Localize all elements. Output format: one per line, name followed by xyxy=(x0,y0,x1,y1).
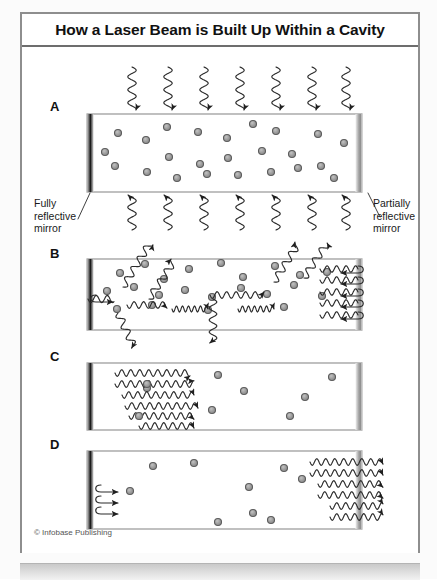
atom xyxy=(127,488,134,495)
pump-wave-in xyxy=(164,67,172,110)
atom xyxy=(191,460,198,467)
atom xyxy=(112,163,119,170)
atom xyxy=(143,137,150,144)
atom xyxy=(289,151,296,158)
atom xyxy=(150,463,157,470)
atom xyxy=(287,413,294,420)
pump-wave-in xyxy=(342,67,350,110)
atom xyxy=(102,149,109,156)
atom xyxy=(291,282,298,289)
atom xyxy=(235,172,242,179)
atom xyxy=(218,260,225,267)
pump-wave-in xyxy=(308,67,316,110)
diagram-artwork xyxy=(22,47,422,553)
atom xyxy=(318,163,325,170)
leader-left xyxy=(78,193,90,219)
atom xyxy=(268,169,275,176)
pump-wave-out xyxy=(272,195,280,230)
page-title: How a Laser Beam is Built Up Within a Ca… xyxy=(55,21,385,39)
atom xyxy=(144,381,151,388)
atom xyxy=(297,272,304,279)
atom xyxy=(331,175,338,182)
atom xyxy=(186,266,193,273)
atom xyxy=(295,165,302,172)
atom xyxy=(131,284,138,291)
fully-reflective-mirror xyxy=(87,259,94,330)
atom xyxy=(224,135,231,142)
pump-wave-in xyxy=(128,67,136,110)
atom xyxy=(225,155,232,162)
pump-wave-out xyxy=(342,195,350,230)
atom xyxy=(329,374,336,381)
atom xyxy=(174,175,181,182)
bottom-strip xyxy=(20,563,420,580)
atom xyxy=(250,121,257,128)
atom xyxy=(209,407,216,414)
pump-wave-in xyxy=(236,67,244,110)
atom xyxy=(264,291,271,298)
atom xyxy=(197,161,204,168)
atom xyxy=(204,171,211,178)
atom xyxy=(281,465,288,472)
figure-title-bar: How a Laser Beam is Built Up Within a Ca… xyxy=(22,14,418,47)
atom xyxy=(268,517,275,524)
pump-wave-out xyxy=(164,195,172,230)
atom xyxy=(136,413,143,420)
atom xyxy=(144,169,151,176)
pump-wave-out xyxy=(200,195,208,230)
pump-wave-in xyxy=(200,67,208,110)
atom xyxy=(302,394,309,401)
atom xyxy=(115,130,122,137)
atom xyxy=(259,148,266,155)
atom xyxy=(241,388,248,395)
figure-body: A B C D Fully reflective mirror Partiall… xyxy=(22,47,418,553)
atom xyxy=(215,372,222,379)
pump-wave-in xyxy=(272,67,280,110)
atom xyxy=(215,519,222,526)
fully-reflective-mirror xyxy=(87,114,94,192)
atom xyxy=(299,476,306,483)
atom xyxy=(246,484,253,491)
atom xyxy=(315,131,322,138)
atom xyxy=(182,287,189,294)
atom xyxy=(273,128,280,135)
partially-reflective-mirror xyxy=(356,114,363,192)
atom xyxy=(272,263,279,270)
partially-reflective-mirror xyxy=(356,363,363,430)
atom xyxy=(104,288,111,295)
atom xyxy=(114,306,121,313)
atom xyxy=(156,292,163,299)
atom xyxy=(240,274,247,281)
cavity-panel-a xyxy=(87,114,362,192)
atom xyxy=(195,129,202,136)
fully-reflective-mirror xyxy=(87,363,94,430)
atom xyxy=(166,154,173,161)
atom xyxy=(238,285,245,292)
pump-wave-out xyxy=(236,195,244,230)
atom xyxy=(117,270,124,277)
atom xyxy=(281,304,288,311)
atom xyxy=(164,124,171,131)
fully-reflective-mirror xyxy=(87,451,94,529)
atom xyxy=(142,261,149,268)
figure-frame: How a Laser Beam is Built Up Within a Ca… xyxy=(20,12,420,553)
atom xyxy=(341,140,348,147)
leader-right xyxy=(368,193,380,217)
atom xyxy=(250,510,257,517)
pump-wave-out xyxy=(308,195,316,230)
pump-wave-out xyxy=(128,195,136,230)
